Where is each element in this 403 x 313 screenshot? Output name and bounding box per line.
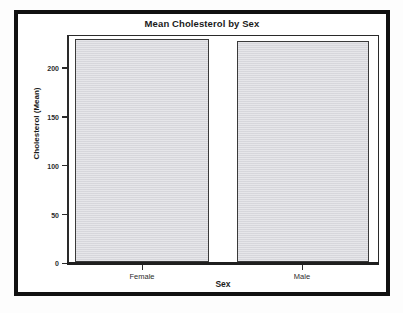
plot-area <box>68 36 378 262</box>
chart-outer-frame: Mean Cholesterol by Sex Cholesterol (Mea… <box>14 10 390 296</box>
x-tick-mark-male <box>302 265 303 270</box>
y-tick-label-0: 0 <box>55 260 59 267</box>
y-axis-ticks: 200 150 100 50 0 <box>18 35 67 263</box>
chart-title: Mean Cholesterol by Sex <box>18 18 386 29</box>
bar-male[interactable] <box>237 41 369 262</box>
bar-chart-figure: Mean Cholesterol by Sex Cholesterol (Mea… <box>18 14 386 292</box>
page-canvas: Mean Cholesterol by Sex Cholesterol (Mea… <box>0 0 403 313</box>
bar-female[interactable] <box>75 39 209 262</box>
y-tick-label-150: 150 <box>47 113 59 120</box>
y-axis-spine <box>67 35 69 263</box>
y-tick-label-50: 50 <box>51 211 59 218</box>
y-tick-label-200: 200 <box>47 65 59 72</box>
x-axis-title: Sex <box>67 279 379 289</box>
x-tick-mark-female <box>142 265 143 270</box>
plot-frame <box>67 35 379 263</box>
y-tick-label-100: 100 <box>47 162 59 169</box>
